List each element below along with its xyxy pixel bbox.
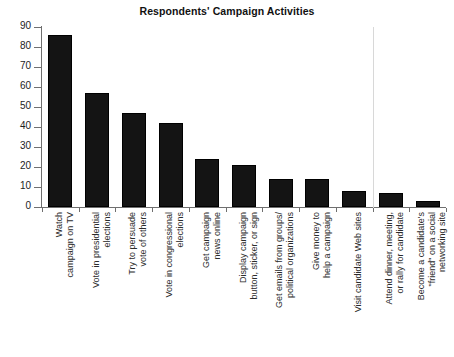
x-axis-label-line: Become a candidate's [416,212,427,357]
y-axis-tick [34,27,42,28]
y-axis-tick-label: 90 [5,20,31,31]
x-axis-line [41,207,446,208]
x-axis-label-line: "friend" on a social [426,212,437,357]
y-axis-tick [34,87,42,88]
x-axis-tick [336,208,337,212]
y-axis-tick-label: 20 [5,160,31,171]
x-axis-label-line: Give money to [311,212,322,357]
bar [269,179,293,207]
y-axis-tick-label: 60 [5,80,31,91]
x-axis-label-line: button, sticker, or sign [248,212,259,357]
bar-chart: Respondents' Campaign Activities 0102030… [0,0,454,357]
x-axis-label-line: vote of others [138,212,149,357]
x-axis-label-line: Watch [54,212,65,357]
y-axis-tick [34,187,42,188]
y-axis-tick [34,167,42,168]
y-axis-tick-label: 30 [5,140,31,151]
x-axis-label-line: Attend dinner, meeting, [384,212,395,357]
bar [195,159,219,207]
y-axis-tick-label: 40 [5,120,31,131]
x-axis-label-line: elections [101,212,112,357]
x-axis-label-line: Vote in presidential [91,212,102,357]
x-axis-label-line: Display campaign [238,212,249,357]
y-axis-tick [34,47,42,48]
x-axis-tick [42,208,43,212]
x-axis-label-line: political organizations [285,212,296,357]
bar [85,93,109,207]
x-axis-tick [152,208,153,212]
y-axis-tick [34,67,42,68]
bar [342,191,366,207]
x-axis-label-line: Get emails from groups/ [274,212,285,357]
bar [379,193,403,207]
bar [305,179,329,207]
x-axis-label-line: networking site [437,212,448,357]
x-axis-label-line: Get campaign [201,212,212,357]
x-axis-tick [373,208,374,212]
x-axis-label-line: Try to persuade [127,212,138,357]
x-axis-label-line: elections [175,212,186,357]
y-axis-tick [34,207,42,208]
y-axis-tick-label: 50 [5,100,31,111]
y-axis-tick-label: 10 [5,180,31,191]
bar [416,201,440,207]
y-axis-tick-label: 0 [5,200,31,211]
x-axis-label-line: news online [211,212,222,357]
y-axis-tick [34,107,42,108]
x-axis-label-line: Vote in congressional [164,212,175,357]
y-axis-tick-label: 70 [5,60,31,71]
x-axis-tick [189,208,190,212]
y-axis-line [41,26,42,208]
bar [48,35,72,207]
x-axis-label-line: help a campaign [321,212,332,357]
x-axis-tick [299,208,300,212]
bar [159,123,183,207]
x-axis-tick [409,208,410,212]
y-axis-tick [34,127,42,128]
bar [232,165,256,207]
x-axis-label-line: or rally for candidate [395,212,406,357]
x-axis-label-line: Visit candidate Web sites [353,212,364,357]
group-separator-line [373,27,374,208]
x-axis-tick [226,208,227,212]
x-axis-label-line: campaign on TV [64,212,75,357]
x-axis-tick [262,208,263,212]
y-axis-tick-label: 80 [5,40,31,51]
x-axis-tick [115,208,116,212]
x-axis-tick [79,208,80,212]
bar [122,113,146,207]
y-axis-tick [34,147,42,148]
plot-area: 0102030405060708090 Watchcampaign on TVV… [0,0,454,357]
